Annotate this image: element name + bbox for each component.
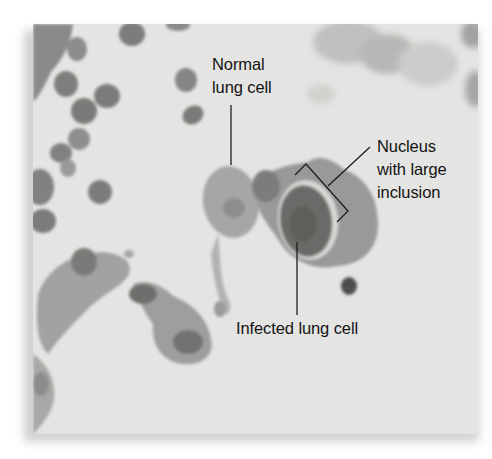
lung-cell-micrograph: Normal lung cell Nucleus with large incl…: [33, 24, 478, 434]
nucleus-label-line3: inclusion: [377, 181, 447, 204]
small-dark-cell: [341, 277, 357, 295]
normal-label-line2: lung cell: [212, 76, 272, 99]
normal-label-line1: Normal: [212, 53, 272, 76]
nucleus-label-line2: with large: [377, 158, 447, 181]
nucleus-label-line1: Nucleus: [377, 135, 447, 158]
nucleus-label: Nucleus with large inclusion: [377, 135, 447, 204]
normal-lung-cell-label: Normal lung cell: [212, 53, 272, 99]
infected-label-line1: Infected lung cell: [236, 317, 358, 340]
infected-lung-cell-label: Infected lung cell: [236, 317, 358, 340]
